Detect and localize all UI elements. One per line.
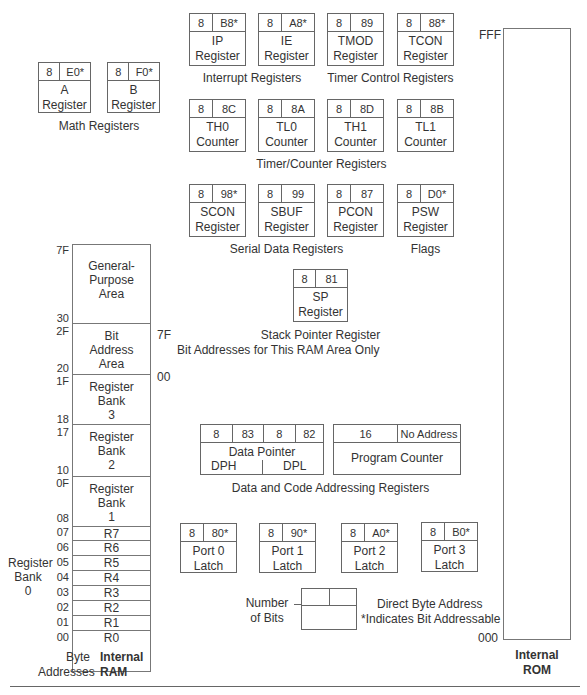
reg-name: IE [259, 34, 314, 49]
reg-sub: Counter [190, 135, 245, 150]
area-line: Purpose [89, 273, 134, 287]
reg-sub: Latch [181, 559, 236, 574]
bank0-line: Bank [8, 570, 48, 584]
reg-name: Port 2 [342, 544, 397, 559]
reg-name: PSW [398, 205, 453, 220]
port0-latch: 880* Port 0Latch [180, 523, 237, 573]
b-register: 8F0* BRegister [107, 62, 160, 113]
rom-addr-top: FFF [479, 28, 501, 42]
internal-ram-title: Internal RAM [100, 650, 143, 680]
addr-07: 07 [45, 526, 69, 538]
addr-08: 08 [45, 512, 69, 524]
bits: 8 [398, 100, 421, 117]
reg-name: TMOD [328, 34, 383, 49]
port1-latch: 890* Port 1Latch [259, 523, 316, 573]
register-r1: R1 [73, 616, 150, 631]
internal-rom [503, 28, 571, 640]
th0-counter: 88C TH0Counter [189, 99, 246, 152]
bits: 8 [259, 14, 282, 31]
program-counter-register: 16 No Address Program Counter [333, 424, 461, 475]
register-bank-0-label: Register Bank 0 [8, 556, 48, 598]
reg-sub: Register [39, 98, 90, 113]
ip-register: 8B8* IPRegister [189, 13, 246, 66]
reg-name: TL1 [398, 120, 453, 135]
register-r3: R3 [73, 586, 150, 601]
bits: 8 [328, 100, 351, 117]
bits: 8 [260, 524, 283, 541]
reg-sub: Register [190, 49, 245, 64]
dph-label: DPH [211, 459, 236, 473]
addr-20: 20 [45, 362, 69, 374]
a-register: 8E0* ARegister [38, 62, 91, 113]
register-r5: R5 [73, 556, 150, 571]
addr-30: 30 [45, 312, 69, 324]
register-r0: R0 [73, 631, 150, 645]
internal-rom-title: Internal ROM [503, 648, 571, 678]
reg-sub: Register [328, 49, 383, 64]
reg-sub: Latch [342, 559, 397, 574]
title-line: ROM [503, 663, 571, 678]
reg-name: PCON [328, 205, 383, 220]
tl0-counter: 88A TL0Counter [258, 99, 315, 152]
bank0-line: 0 [8, 584, 48, 598]
reg-sub: Register [398, 49, 453, 64]
bits: 8 [328, 185, 351, 202]
legend-direct-byte-address: Direct Byte Address [377, 597, 482, 611]
reg-name: A [39, 83, 90, 98]
area-line: Register [89, 380, 134, 394]
area-line: General- [88, 259, 135, 273]
stack-pointer-label: Stack Pointer Register [258, 328, 383, 342]
bits: 8 [328, 14, 351, 31]
reg-name: SCON [190, 205, 245, 220]
data-pointer-register: 8 83 8 82 Data Pointer DPH DPL [200, 424, 324, 475]
addr-17: 17 [45, 426, 69, 438]
reg-name: TCON [398, 34, 453, 49]
addr-03: 03 [45, 586, 69, 598]
title-line: RAM [100, 665, 143, 680]
addr-00: 00 [45, 631, 69, 643]
addr-2f: 2F [45, 325, 69, 337]
reg-name: SBUF [259, 205, 314, 220]
caption-line: Byte [38, 650, 90, 665]
rom-addr-bottom: 000 [478, 631, 498, 645]
reg-name: TL0 [259, 120, 314, 135]
pcon-register: 887 PCONRegister [327, 184, 384, 237]
bits: 8 [342, 524, 365, 541]
addr-10: 10 [45, 464, 69, 476]
bits: 8 [294, 270, 316, 287]
address: 80* [204, 524, 236, 541]
address: A0* [365, 524, 397, 541]
addr-02: 02 [45, 601, 69, 613]
title-line: Internal [503, 648, 571, 663]
address: 90* [283, 524, 315, 541]
register-r7: R7 [73, 527, 150, 541]
tmod-register: 889 TMODRegister [327, 13, 384, 66]
addr-7f: 7F [45, 244, 69, 256]
bit-range-high: 7F [157, 328, 171, 342]
caption-line: Addresses [38, 665, 90, 680]
port3-latch: 8B0* Port 3Latch [421, 522, 478, 572]
reg-sub: Register [328, 220, 383, 235]
reg-sub: Latch [260, 559, 315, 574]
divider [262, 460, 263, 475]
address: B0* [445, 523, 477, 540]
th1-counter: 88D TH1Counter [327, 99, 384, 152]
reg-sub: Register [108, 98, 159, 113]
bits: 8 [398, 14, 421, 31]
bits: 8 [259, 185, 282, 202]
address: F0* [129, 63, 159, 80]
reg-sub: Register [259, 220, 314, 235]
addr-1f: 1F [45, 375, 69, 387]
bits: 8 [39, 63, 60, 80]
timer-counter-registers-label: Timer/Counter Registers [189, 157, 454, 171]
reg-sub: Register [190, 220, 245, 235]
legend-pointer-line-bits [294, 604, 302, 605]
bits: 8 [398, 185, 421, 202]
ie-register: 8A8* IERegister [258, 13, 315, 66]
address: 8B [421, 100, 453, 117]
reg-name: TH0 [190, 120, 245, 135]
tl1-counter: 88B TL1Counter [397, 99, 454, 152]
reg-name: SP [294, 290, 347, 305]
interrupt-registers-label: Interrupt Registers [189, 71, 315, 85]
bits: 8 [181, 524, 204, 541]
